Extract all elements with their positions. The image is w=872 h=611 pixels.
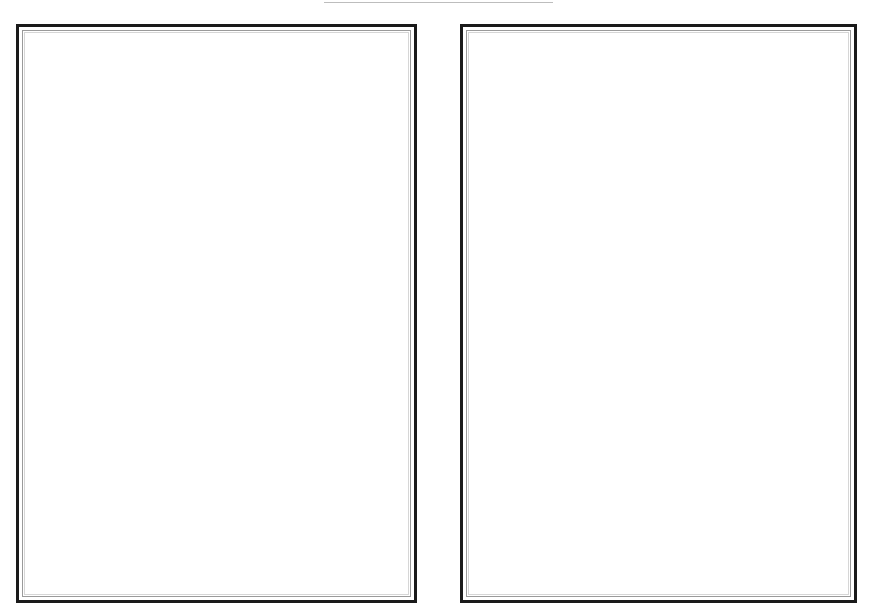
left-page-content	[27, 35, 406, 592]
right-page	[460, 24, 857, 603]
top-divider-line	[324, 2, 553, 3]
left-page	[16, 24, 417, 603]
document-spread	[0, 0, 872, 611]
right-page-content	[471, 35, 846, 592]
